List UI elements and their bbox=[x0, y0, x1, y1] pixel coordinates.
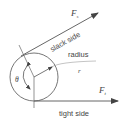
radius-arrow bbox=[34, 67, 52, 77]
belt-pulley-diagram: Fs slack side radius r θ Ft tight side bbox=[0, 0, 124, 123]
radius-label: radius bbox=[68, 50, 89, 59]
slack-force-label: Fs bbox=[70, 8, 79, 19]
radius-leader-line bbox=[52, 61, 96, 67]
angle-arc bbox=[23, 66, 30, 89]
radius-symbol: r bbox=[78, 67, 81, 75]
tight-side-label: tight side bbox=[59, 109, 89, 118]
tight-force-label: Ft bbox=[98, 85, 107, 96]
angle-theta-label: θ bbox=[15, 75, 19, 84]
